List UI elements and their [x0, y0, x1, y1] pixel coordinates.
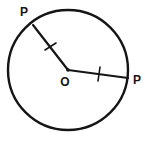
circle-diagram-canvas: O P P	[0, 0, 145, 143]
geometry-figure: O P P	[0, 0, 145, 143]
center-point-dot	[66, 68, 70, 72]
label-point-upper-left-p: P	[20, 5, 28, 19]
label-center-o: O	[60, 75, 69, 89]
label-point-right-p: P	[133, 73, 141, 87]
